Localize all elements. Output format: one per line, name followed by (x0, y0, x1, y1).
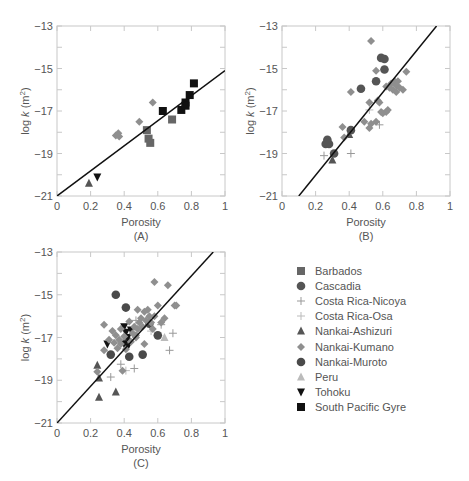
legend-marker-circle-icon (293, 280, 309, 292)
plot-frame (57, 26, 225, 196)
series-nankai-ashizuri (93, 361, 119, 401)
legend-label: South Pacific Gyre (315, 401, 406, 413)
data-point-costa-rica-nicoya (107, 373, 115, 381)
y-tick-label: −15 (34, 289, 53, 301)
plot-area (299, 26, 437, 196)
legend-item-costa-rica-nicoya: Costa Rica-Nicoya (293, 293, 406, 308)
data-point-nankai-kumano (93, 368, 101, 376)
legend-label: Nankai-Kumano (315, 341, 394, 353)
legend-label: Cascadia (315, 280, 361, 292)
data-point-nankai-kumano (402, 68, 410, 76)
panel--c-: −13−15−17−19−2100.20.40.60.81Porosity(C)… (18, 246, 228, 469)
data-point-cascadia (323, 139, 332, 148)
data-point-costa-rica-nicoya (117, 360, 125, 368)
data-point-costa-rica-nicoya (130, 364, 138, 372)
x-tick-label: 0.4 (117, 427, 132, 439)
legend-marker (297, 357, 306, 366)
series-tohoku (93, 173, 101, 181)
legend-item-tohoku: Tohoku (293, 385, 406, 400)
plot-area (57, 71, 225, 196)
regression-line (57, 71, 225, 196)
regression-line (57, 252, 213, 423)
y-axis-title: log k (m2) (243, 87, 256, 134)
data-point-nankai-kumano (119, 367, 127, 375)
x-axis-title: Porosity (121, 443, 161, 455)
panel-label: (C) (133, 457, 148, 469)
y-tick-label: −21 (34, 190, 53, 202)
data-point-south-pacific-gyre (159, 107, 167, 115)
series-nankai-kumano (93, 278, 180, 376)
series-nankai-kumano (338, 37, 410, 142)
x-tick-label: 0.6 (150, 200, 165, 212)
x-axis-title: Porosity (121, 216, 161, 228)
x-tick-label: 1 (222, 200, 228, 212)
x-tick-label: 0 (54, 200, 60, 212)
y-tick-label: −17 (34, 105, 53, 117)
y-axis-title: log k (m2) (18, 314, 31, 361)
data-point-costa-rica-nicoya (166, 346, 174, 354)
plot-area (57, 252, 213, 423)
legend-item-nankai-ashizuri: Nankai-Ashizuri (293, 324, 406, 339)
data-point-cascadia (380, 55, 389, 64)
x-tick-label: 0.6 (375, 200, 390, 212)
x-tick-label: 0.8 (409, 200, 424, 212)
data-point-cascadia (380, 65, 389, 74)
legend-marker-diamond-icon (293, 341, 309, 353)
data-point-nankai-kumano (372, 67, 380, 75)
y-tick-label: −13 (259, 20, 278, 32)
data-point-south-pacific-gyre (190, 79, 198, 87)
data-point-nankai-kumano (367, 37, 375, 45)
legend-item-nankai-muroto: Nankai-Muroto (293, 354, 406, 369)
data-point-nankai-kumano (150, 278, 158, 286)
data-point-nankai-kumano (140, 340, 148, 348)
legend-item-costa-rica-osa: Costa Rica-Osa (293, 309, 406, 324)
x-tick-label: 0.2 (83, 427, 98, 439)
x-tick-label: 0 (54, 427, 60, 439)
legend-item-peru: Peru (293, 369, 406, 384)
data-point-nankai-kumano (164, 281, 172, 289)
regression-line (299, 26, 437, 196)
panel-label: (B) (359, 230, 374, 242)
x-tick-label: 1 (447, 200, 453, 212)
data-point-nankai-kumano (134, 306, 142, 314)
data-point-nankai-kumano (135, 118, 143, 126)
data-point-costa-rica-nicoya (320, 152, 328, 160)
data-point-barbados (146, 139, 154, 147)
data-point-nankai-ashizuri (85, 179, 93, 187)
x-tick-label: 0 (279, 200, 285, 212)
series-nankai-ashizuri (85, 179, 93, 187)
data-point-nankai-muroto (138, 350, 147, 359)
y-tick-label: −15 (259, 63, 278, 75)
plot-frame (57, 252, 225, 423)
data-point-nankai-kumano (149, 99, 157, 107)
data-point-costa-rica-nicoya (169, 329, 177, 337)
legend-label: Nankai-Muroto (315, 356, 387, 368)
x-tick-label: 0.8 (184, 427, 199, 439)
legend-label: Costa Rica-Nicoya (315, 295, 406, 307)
data-point-cascadia (372, 77, 381, 86)
legend-marker (297, 297, 305, 305)
legend-marker (297, 372, 305, 380)
panel-label: (A) (134, 230, 149, 242)
legend-label: Barbados (315, 265, 362, 277)
legend-item-cascadia: Cascadia (293, 278, 406, 293)
data-point-nankai-muroto (122, 303, 131, 312)
legend-marker (297, 281, 306, 290)
y-tick-label: −21 (34, 417, 53, 429)
legend-marker (297, 327, 305, 335)
y-tick-label: −15 (34, 63, 53, 75)
legend-marker (297, 403, 305, 411)
series-nankai-kumano (112, 99, 157, 141)
x-tick-label: 0.8 (184, 200, 199, 212)
data-point-costa-rica-nicoya (347, 150, 355, 158)
data-point-nankai-kumano (100, 321, 108, 329)
panel--b-: −13−15−17−19−2100.20.40.60.81Porosity(B)… (243, 20, 453, 242)
x-tick-label: 1 (222, 427, 228, 439)
legend-marker-square-icon (293, 401, 309, 413)
data-point-nankai-muroto (112, 290, 121, 299)
legend: BarbadosCascadiaCosta Rica-NicoyaCosta R… (293, 263, 406, 415)
y-tick-label: −19 (34, 148, 53, 160)
data-point-barbados (168, 116, 176, 124)
legend-marker-triangle-up-icon (293, 371, 309, 383)
y-tick-label: −21 (259, 190, 278, 202)
